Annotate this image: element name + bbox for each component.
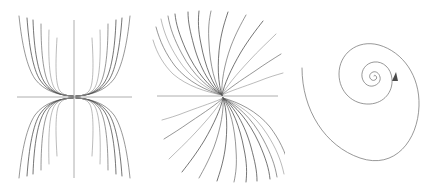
trajectory-curve <box>41 24 73 96</box>
trajectory-curve <box>76 98 93 156</box>
panel-logarithmic-spiral <box>285 0 425 191</box>
trajectory-curve <box>76 30 100 96</box>
trajectory-curve <box>49 98 73 164</box>
trajectory-curve <box>161 19 222 95</box>
trajectory-curve <box>223 98 285 166</box>
direction-arrow-icon <box>392 72 398 81</box>
trajectory-curve <box>218 12 228 95</box>
trajectory-group-upper-right <box>76 16 130 96</box>
trajectory-curve <box>49 30 73 96</box>
trajectory-curve <box>41 98 73 170</box>
trajectory-curve <box>222 21 263 95</box>
panel-improper-node <box>0 0 142 191</box>
figure-root <box>0 0 425 191</box>
trajectory-curve <box>217 98 227 181</box>
logarithmic-spiral-plot <box>285 0 425 191</box>
trajectory-group-lower-left <box>19 98 73 178</box>
trajectory-group-upper <box>153 11 283 95</box>
trajectory-curve <box>76 18 122 96</box>
spiral-group <box>302 44 419 161</box>
trajectory-curve <box>222 54 281 95</box>
trajectory-curve <box>76 98 122 176</box>
trajectory-curve <box>164 98 223 139</box>
trajectory-curve <box>169 98 223 159</box>
panel-spiral-node <box>142 0 285 191</box>
trajectory-curve <box>27 98 73 176</box>
trajectory-curve <box>222 34 276 95</box>
trajectory-curve <box>222 73 283 95</box>
trajectory-curve <box>76 98 100 164</box>
trajectory-curve <box>223 98 284 174</box>
trajectory-curve <box>162 98 223 120</box>
trajectory-curve <box>56 38 73 96</box>
trajectory-group-lower-right <box>76 98 130 178</box>
trajectory-group-upper-left <box>19 16 73 96</box>
spiral-trajectory <box>302 44 419 161</box>
improper-node-plot <box>0 0 142 191</box>
trajectory-curve <box>76 98 108 170</box>
trajectory-curve <box>56 98 73 156</box>
trajectory-curve <box>182 98 223 172</box>
direction-arrow-group <box>392 72 398 81</box>
trajectory-curve <box>76 24 108 96</box>
trajectory-curve <box>76 38 93 96</box>
spiral-node-plot <box>142 0 285 191</box>
trajectory-group-lower <box>162 98 285 182</box>
trajectory-curve <box>27 18 73 96</box>
